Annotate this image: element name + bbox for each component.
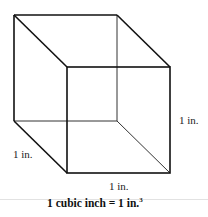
- visible-edges: [14, 15, 170, 173]
- caption-exponent: 3: [139, 196, 143, 204]
- caption: 1 cubic inch = 1 in.3: [47, 196, 143, 209]
- depth-label: 1 in.: [13, 148, 33, 160]
- height-label: 1 in.: [179, 114, 199, 126]
- caption-text: 1 cubic inch = 1 in.: [47, 197, 139, 209]
- width-label: 1 in.: [109, 180, 129, 192]
- cube-figure: [0, 0, 208, 217]
